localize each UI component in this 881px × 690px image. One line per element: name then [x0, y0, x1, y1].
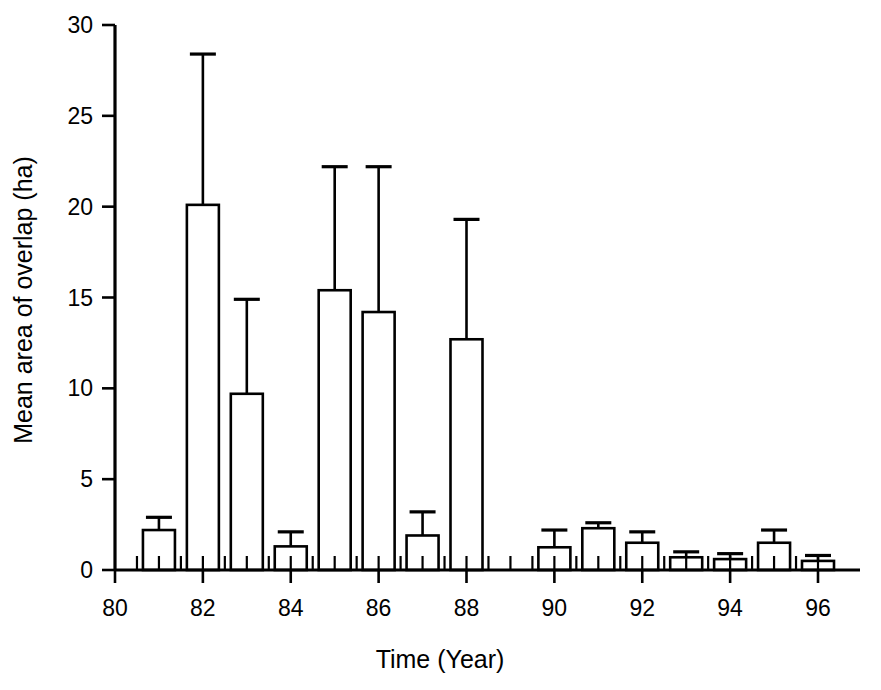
y-tick-label: 15	[67, 285, 93, 311]
y-tick-label: 30	[67, 12, 93, 38]
bar	[363, 312, 395, 570]
bar	[187, 205, 219, 570]
x-tick-label: 86	[366, 595, 392, 621]
x-tick-label: 84	[278, 595, 304, 621]
bar	[451, 339, 483, 570]
x-tick-label: 96	[805, 595, 831, 621]
y-tick-label: 25	[67, 103, 93, 129]
chart-background	[0, 0, 881, 690]
x-tick-label: 82	[190, 595, 216, 621]
x-tick-label: 80	[102, 595, 128, 621]
chart-figure: 808284868890929496051015202530 Time (Yea…	[0, 0, 881, 690]
y-tick-label: 5	[80, 466, 93, 492]
x-tick-label: 94	[717, 595, 743, 621]
y-tick-label: 10	[67, 375, 93, 401]
bar-chart-plot: 808284868890929496051015202530 Time (Yea…	[0, 0, 881, 690]
x-tick-label: 88	[454, 595, 480, 621]
y-tick-label: 20	[67, 194, 93, 220]
x-axis-title: Time (Year)	[376, 645, 505, 673]
bar	[319, 290, 351, 570]
y-tick-label: 0	[80, 557, 93, 583]
x-tick-label: 92	[629, 595, 655, 621]
bar	[231, 394, 263, 570]
x-tick-label: 90	[542, 595, 568, 621]
y-axis-title: Mean area of overlap (ha)	[9, 156, 37, 444]
